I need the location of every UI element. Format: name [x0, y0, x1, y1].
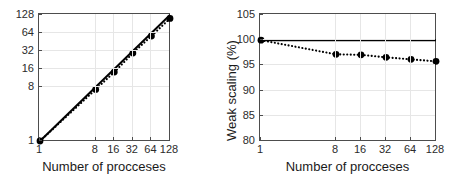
grid-line-vertical	[360, 14, 361, 140]
x-tick-label: 16	[354, 144, 366, 155]
x-axis-title-weak-scaling: Number of procceses	[286, 160, 410, 174]
x-tick-mark	[435, 137, 436, 140]
grid-line-vertical	[385, 14, 386, 140]
y-tick-mark	[39, 14, 42, 15]
x-tick-mark	[385, 137, 386, 140]
data-point-marker	[111, 69, 118, 76]
chart-strong-scaling: 1816326412818163264128 Number of procces…	[0, 0, 229, 188]
y-tick-label: 1	[4, 135, 34, 146]
y-tick-mark	[260, 90, 263, 91]
y-tick-mark	[39, 86, 42, 87]
data-point-marker	[167, 15, 174, 22]
y-tick-mark	[260, 64, 263, 65]
x-tick-label: 64	[404, 144, 416, 155]
grid-line-horizontal	[39, 86, 169, 87]
y-tick-mark	[260, 39, 263, 40]
x-tick-mark	[132, 137, 133, 140]
x-axis-title-strong-scaling: Number of procceses	[42, 160, 166, 174]
y-tick-label: 8	[4, 81, 34, 92]
y-axis-title-weak-scaling: Weak scaling (%)	[225, 40, 239, 141]
data-point-marker	[383, 54, 390, 61]
y-tick-label: 32	[4, 45, 34, 56]
x-tick-mark	[410, 137, 411, 140]
x-tick-mark	[95, 137, 96, 140]
data-point-marker	[408, 56, 415, 63]
y-tick-mark	[260, 14, 263, 15]
plot-lines-strong-scaling	[39, 14, 171, 142]
grid-line-horizontal	[260, 90, 435, 91]
grid-line-vertical	[410, 14, 411, 140]
x-tick-label: 64	[144, 144, 156, 155]
grid-line-horizontal	[260, 64, 435, 65]
x-tick-label: 1	[257, 144, 263, 155]
x-tick-mark	[113, 137, 114, 140]
y-tick-mark	[39, 50, 42, 51]
y-tick-label: 64	[4, 27, 34, 38]
x-tick-label: 8	[332, 144, 338, 155]
x-tick-mark	[150, 137, 151, 140]
grid-line-horizontal	[39, 32, 169, 33]
y-tick-mark	[39, 68, 42, 69]
x-tick-mark	[335, 137, 336, 140]
data-point-marker	[333, 51, 340, 58]
x-tick-label: 128	[426, 144, 444, 155]
x-tick-label: 8	[92, 144, 98, 155]
x-tick-mark	[360, 137, 361, 140]
chart-weak-scaling: 1816326412880859095100105 Number of proc…	[229, 0, 458, 188]
plot-area-strong-scaling	[38, 13, 170, 141]
data-point-marker	[358, 51, 365, 58]
x-tick-label: 16	[107, 144, 119, 155]
y-tick-label: 128	[4, 9, 34, 20]
y-tick-label: 105	[225, 9, 255, 20]
plot-area-weak-scaling	[259, 13, 436, 141]
y-tick-mark	[39, 140, 42, 141]
grid-line-horizontal	[260, 115, 435, 116]
grid-line-horizontal	[260, 39, 435, 40]
figure-canvas: 1816326412818163264128 Number of procces…	[0, 0, 458, 188]
y-tick-mark	[39, 32, 42, 33]
x-tick-label: 128	[160, 144, 178, 155]
data-point-marker	[258, 37, 265, 44]
grid-line-horizontal	[39, 68, 169, 69]
y-tick-mark	[260, 115, 263, 116]
y-tick-mark	[260, 140, 263, 141]
y-tick-label: 16	[4, 63, 34, 74]
x-tick-mark	[169, 137, 170, 140]
x-tick-label: 32	[126, 144, 138, 155]
x-tick-label: 32	[379, 144, 391, 155]
grid-line-horizontal	[39, 50, 169, 51]
grid-line-vertical	[335, 14, 336, 140]
x-tick-label: 1	[36, 144, 42, 155]
